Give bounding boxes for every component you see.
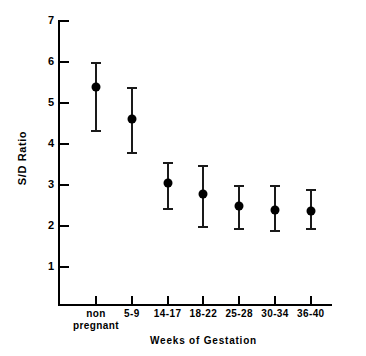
x-tick-label-14-17: 14-17 (154, 308, 182, 319)
error-cap-lower (306, 228, 316, 230)
error-cap-upper (270, 185, 280, 187)
y-tick-label-1: 1 (36, 261, 54, 272)
data-point-marker (163, 178, 172, 187)
x-tick-14-17 (167, 296, 169, 305)
error-bar (95, 62, 97, 132)
x-tick-label-non-pregnant: nonpregnant (73, 308, 119, 331)
error-cap-upper (163, 162, 173, 164)
x-tick-label-18-22: 18-22 (190, 308, 218, 319)
y-tick-5 (60, 102, 69, 104)
y-tick-2 (60, 225, 69, 227)
data-point-marker (199, 190, 208, 199)
x-tick-label-5-9: 5-9 (124, 308, 140, 319)
x-tick-label-25-28: 25-28 (225, 308, 253, 319)
y-tick-4 (60, 143, 69, 145)
data-point-marker (306, 206, 315, 215)
x-tick-25-28 (238, 296, 240, 305)
error-cap-lower (163, 208, 173, 210)
data-point-marker (271, 205, 280, 214)
data-point-marker (235, 201, 244, 210)
x-tick-30-34 (274, 296, 276, 305)
y-tick-label-5: 5 (36, 97, 54, 108)
error-cap-lower (91, 130, 101, 132)
x-axis-title: Weeks of Gestation (150, 335, 330, 346)
y-tick-label-2: 2 (36, 220, 54, 231)
error-cap-lower (234, 228, 244, 230)
y-tick-label-4: 4 (36, 138, 54, 149)
x-tick-non-pregnant (95, 296, 97, 305)
error-cap-upper (91, 62, 101, 64)
x-tick-label-36-40: 36-40 (297, 308, 325, 319)
error-cap-lower (270, 230, 280, 232)
y-axis-title: S/D Ratio (16, 98, 28, 218)
x-tick-36-40 (310, 296, 312, 305)
y-tick-7 (60, 20, 69, 22)
error-cap-upper (234, 185, 244, 187)
x-tick-5-9 (131, 296, 133, 305)
x-tick-label-30-34: 30-34 (261, 308, 289, 319)
error-cap-lower (127, 152, 137, 154)
y-tick-label-6: 6 (36, 56, 54, 67)
y-tick-1 (60, 266, 69, 268)
chart-figure: S/D Ratio Weeks of Gestation 1234567 non… (0, 0, 366, 356)
error-cap-upper (198, 165, 208, 167)
error-cap-upper (127, 87, 137, 89)
y-tick-3 (60, 184, 69, 186)
x-axis-line (58, 304, 332, 306)
error-cap-lower (198, 226, 208, 228)
y-tick-label-7: 7 (36, 15, 54, 26)
y-tick-6 (60, 61, 69, 63)
data-point-marker (127, 115, 136, 124)
data-point-marker (92, 82, 101, 91)
x-tick-18-22 (202, 296, 204, 305)
error-cap-upper (306, 189, 316, 191)
y-tick-label-3: 3 (36, 179, 54, 190)
